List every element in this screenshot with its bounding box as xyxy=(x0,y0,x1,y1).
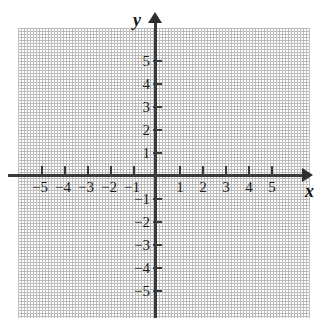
y-tick-label: −2 xyxy=(126,215,150,230)
x-axis-tick xyxy=(64,166,66,175)
x-tick-label: −4 xyxy=(51,180,75,195)
x-axis-tick xyxy=(87,166,89,175)
x-axis-tick xyxy=(271,166,273,175)
y-axis-tick xyxy=(153,60,162,62)
y-axis-line xyxy=(154,22,157,318)
y-axis-tick xyxy=(153,267,162,269)
x-tick-label: −2 xyxy=(97,180,121,195)
y-tick-label: 1 xyxy=(126,146,150,161)
x-axis-tick xyxy=(225,166,227,175)
x-axis-tick xyxy=(110,166,112,175)
x-axis-tick xyxy=(133,166,135,175)
x-tick-label: −5 xyxy=(28,180,52,195)
y-axis-tick xyxy=(153,244,162,246)
coordinate-plane-figure: −5 −4 −3 −2 −1 1 2 3 4 5 5 4 3 2 1 −1 −2… xyxy=(0,0,324,326)
y-axis-tick xyxy=(153,152,162,154)
y-tick-label: 2 xyxy=(126,123,150,138)
y-axis-tick xyxy=(153,83,162,85)
x-tick-label: 1 xyxy=(168,180,192,195)
x-axis-tick xyxy=(41,166,43,175)
x-axis-arrowhead-icon xyxy=(302,168,313,182)
x-tick-label: −3 xyxy=(74,180,98,195)
x-axis-tick xyxy=(179,166,181,175)
x-tick-label: 3 xyxy=(214,180,238,195)
y-tick-label: 5 xyxy=(126,54,150,69)
y-axis-label: y xyxy=(133,10,141,31)
x-axis-tick xyxy=(248,166,250,175)
y-axis-tick xyxy=(153,290,162,292)
x-tick-label: 4 xyxy=(237,180,261,195)
y-axis-tick xyxy=(153,221,162,223)
y-tick-label: 4 xyxy=(126,77,150,92)
y-tick-label: −1 xyxy=(126,192,150,207)
y-tick-label: −4 xyxy=(126,261,150,276)
dotted-grid xyxy=(18,28,310,318)
x-axis-tick xyxy=(202,166,204,175)
y-axis-tick xyxy=(153,198,162,200)
x-tick-label: 2 xyxy=(191,180,215,195)
x-axis-label: x xyxy=(305,181,314,202)
y-tick-label: −5 xyxy=(126,284,150,299)
y-tick-label: −3 xyxy=(126,238,150,253)
y-axis-tick xyxy=(153,129,162,131)
y-tick-label: 3 xyxy=(126,100,150,115)
x-tick-label: 5 xyxy=(260,180,284,195)
y-axis-tick xyxy=(153,106,162,108)
y-axis-arrowhead-icon xyxy=(148,12,162,23)
